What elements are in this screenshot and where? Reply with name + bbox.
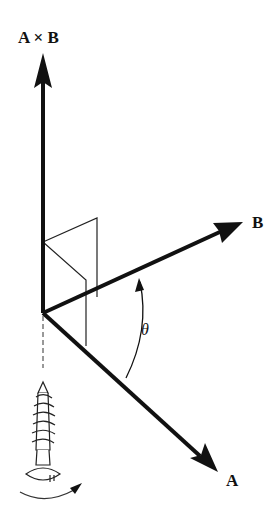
rotation-arrow-icon — [20, 483, 82, 499]
cross-product-vector — [34, 53, 52, 313]
cross-product-diagram — [0, 0, 278, 521]
vector-a — [43, 313, 218, 472]
label-theta: θ — [141, 322, 149, 338]
label-b: B — [252, 214, 263, 231]
label-cross-product: A × B — [18, 29, 59, 46]
label-a: A — [226, 472, 238, 489]
plane-outline — [43, 218, 97, 346]
screw-icon — [26, 382, 60, 482]
